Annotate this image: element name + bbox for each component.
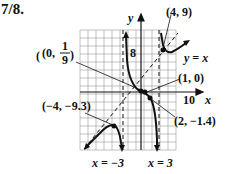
label-frac-den: 9 [62, 53, 68, 67]
label-y-eq-x: y = x [182, 51, 208, 65]
label-x-eq-3: x = 3 [147, 156, 173, 170]
label-y-axis: y [126, 11, 134, 25]
label-point-2-neg1_4: (2, −1.4) [174, 114, 216, 128]
label-x-tick-10: 10 [183, 93, 195, 107]
label-point-4-9: (4, 9) [166, 5, 192, 19]
arrow-middle-bottom-icon [154, 145, 160, 152]
label-frac-num: 1 [62, 39, 68, 53]
label-point-1-0: (1, 0) [178, 71, 204, 85]
label-paren-close: ) [70, 48, 74, 62]
label-point-0-1-9: (0, [42, 46, 55, 60]
y-axis-arrow-icon [138, 14, 144, 21]
point-4-9 [161, 48, 166, 53]
label-paren-open: ( [36, 49, 40, 63]
label-x-eq-neg3: x = −3 [91, 156, 124, 170]
point-1-0 [143, 90, 148, 95]
label-point-neg4-neg9_3: (−4, −9.3) [42, 99, 91, 113]
x-axis-arrow-icon [196, 89, 203, 95]
label-y-tick-8: 8 [130, 46, 136, 60]
label-x-axis: x [204, 93, 211, 107]
function-graph: (0, 1 9 ) ( (4, 9) y = x (1, 0) (−4, −9.… [0, 0, 233, 174]
